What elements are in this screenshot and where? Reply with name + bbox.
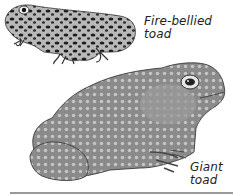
giant-toad-label-line2: toad bbox=[190, 174, 223, 187]
toad-illustration: Fire-bellied toad Giant toad bbox=[0, 0, 233, 196]
fire-bellied-toad-label-line1: Fire-bellied bbox=[144, 15, 212, 28]
bottom-divider bbox=[10, 192, 233, 194]
giant-toad-label-line1: Giant bbox=[190, 161, 223, 174]
giant-toad-label: Giant toad bbox=[190, 161, 223, 186]
fire-bellied-toad-label: Fire-bellied toad bbox=[144, 15, 212, 40]
fire-bellied-toad-label-line2: toad bbox=[144, 28, 212, 41]
fire-bellied-toad-figure bbox=[5, 5, 135, 64]
